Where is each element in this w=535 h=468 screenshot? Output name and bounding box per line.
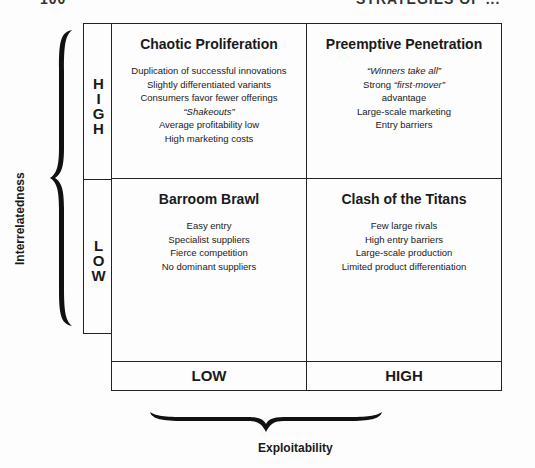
quadrant-item: High entry barriers	[307, 233, 501, 247]
page-number: 100	[40, 0, 66, 7]
y-label-low: L O W	[84, 238, 113, 283]
quadrant-item: “Shakeouts”	[112, 105, 306, 119]
x-axis-label-row: LOW HIGH	[111, 361, 502, 391]
y-axis-title: Interrelatedness	[13, 205, 27, 265]
y-axis-label-column: H I G H L O W	[83, 23, 112, 334]
quadrant-item: Fierce competition	[112, 246, 306, 260]
quadrant-clash-of-the-titans: Clash of the Titans Few large rivals Hig…	[306, 178, 502, 362]
quadrant-item: Average profitability low	[112, 118, 306, 132]
quadrant-preemptive-penetration: Preemptive Penetration “Winners take all…	[306, 23, 502, 179]
quadrant-item: Entry barriers	[307, 118, 501, 132]
quadrant-item: Large-scale marketing	[307, 105, 501, 119]
quadrant-title: Clash of the Titans	[307, 191, 501, 207]
quadrant-title: Chaotic Proliferation	[112, 36, 306, 52]
vertical-brace-icon	[48, 28, 78, 328]
y-label-high: H I G H	[84, 76, 113, 136]
quadrant-item: Strong “first-mover”	[307, 78, 501, 92]
quadrant-chaotic-proliferation: Chaotic Proliferation Duplication of suc…	[111, 23, 307, 179]
quadrant-item: advantage	[307, 91, 501, 105]
quadrant-item-part: Strong	[363, 79, 391, 90]
quadrant-item: Slightly differentiated variants	[112, 78, 306, 92]
quadrant-item: Limited product differentiation	[307, 260, 501, 274]
quadrant-item: Few large rivals	[307, 219, 501, 233]
quadrant-title: Barroom Brawl	[112, 191, 306, 207]
quadrant-barroom-brawl: Barroom Brawl Easy entry Specialist supp…	[111, 178, 307, 362]
quadrant-item: Easy entry	[112, 219, 306, 233]
x-axis-title: Exploitability	[258, 441, 333, 455]
x-label-low: LOW	[111, 361, 307, 391]
horizontal-brace-icon	[148, 410, 384, 436]
quadrant-item: Specialist suppliers	[112, 233, 306, 247]
quadrant-item: High marketing costs	[112, 132, 306, 146]
divider	[84, 179, 111, 180]
quadrant-title: Preemptive Penetration	[307, 36, 501, 52]
quadrant-item: “Winners take all”	[307, 64, 501, 78]
quadrant-item: Consumers favor fewer offerings	[112, 91, 306, 105]
quadrant-item: Large-scale production	[307, 246, 501, 260]
quadrant-item-part: “first-mover”	[394, 79, 445, 90]
quadrant-item: No dominant suppliers	[112, 260, 306, 274]
running-title: STRATEGIES OF ...	[356, 0, 500, 7]
quadrant-item: Duplication of successful innovations	[112, 64, 306, 78]
x-label-high: HIGH	[306, 361, 502, 391]
